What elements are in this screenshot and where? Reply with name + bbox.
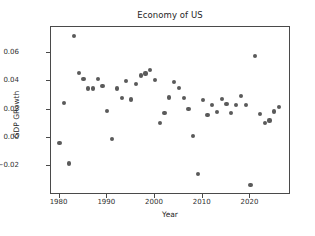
x-tick-label: 2020 [241, 198, 259, 206]
plot-axes [50, 26, 290, 194]
y-tick-label: 0.06 [3, 48, 19, 56]
scatter-point [248, 183, 252, 187]
x-tick-mark [59, 194, 60, 198]
y-tick-mark [46, 80, 50, 81]
scatter-point [267, 118, 271, 122]
x-tick-mark [154, 194, 155, 198]
scatter-point [205, 113, 209, 117]
scatter-point [115, 86, 119, 90]
scatter-point [91, 86, 95, 90]
scatter-point [253, 54, 257, 58]
scatter-point [210, 103, 214, 107]
scatter-point [57, 141, 61, 145]
x-axis-label: Year [50, 210, 290, 219]
scatter-point [234, 103, 238, 107]
scatter-point [100, 84, 104, 88]
scatter-point [196, 172, 200, 176]
scatter-point [186, 107, 190, 111]
x-tick-label: 2000 [145, 198, 163, 206]
y-tick-label: −0.02 [0, 161, 19, 169]
scatter-point [62, 101, 66, 105]
scatter-point [191, 134, 195, 138]
scatter-point [134, 82, 138, 86]
scatter-point [272, 109, 276, 113]
scatter-point [105, 109, 109, 113]
y-axis-label: GDP GRowth [12, 75, 21, 155]
chart-figure: Economy of US 0.060.040.020.00−0.02 1980… [0, 0, 315, 236]
scatter-point [258, 112, 262, 116]
scatter-point [153, 78, 157, 82]
scatter-point [86, 86, 90, 90]
scatter-point [110, 137, 114, 141]
scatter-point [244, 103, 248, 107]
x-tick-label: 1980 [50, 198, 68, 206]
x-tick-mark [106, 194, 107, 198]
scatter-point [220, 97, 224, 101]
y-tick-mark [46, 137, 50, 138]
y-tick-mark [46, 52, 50, 53]
scatter-point [96, 77, 100, 81]
scatter-point [239, 94, 243, 98]
x-tick-label: 1990 [97, 198, 115, 206]
scatter-point [201, 98, 205, 102]
scatter-point [143, 71, 147, 75]
x-tick-mark [249, 194, 250, 198]
scatter-point [177, 86, 181, 90]
scatter-point [162, 111, 166, 115]
scatter-point [229, 111, 233, 115]
scatter-point [263, 121, 267, 125]
scatter-point [67, 161, 71, 165]
scatter-point [158, 121, 162, 125]
y-tick-mark [46, 165, 50, 166]
chart-title: Economy of US [50, 10, 290, 20]
scatter-point [172, 80, 176, 84]
scatter-point [167, 95, 171, 99]
scatter-point [81, 77, 85, 81]
scatter-point [277, 105, 281, 109]
scatter-point [124, 79, 128, 83]
scatter-point [120, 96, 124, 100]
scatter-point [224, 102, 228, 106]
plot-area [51, 27, 289, 193]
x-tick-mark [202, 194, 203, 198]
scatter-point [129, 97, 133, 101]
scatter-point [139, 73, 143, 77]
x-tick-label: 2010 [193, 198, 211, 206]
scatter-point [215, 110, 219, 114]
scatter-point [148, 68, 152, 72]
y-tick-mark [46, 109, 50, 110]
scatter-point [182, 96, 186, 100]
scatter-point [72, 34, 76, 38]
scatter-point [77, 71, 81, 75]
